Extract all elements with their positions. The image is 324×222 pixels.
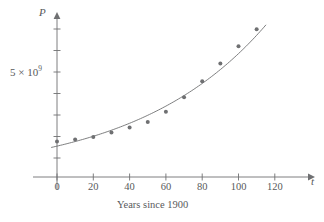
data-point [182, 95, 186, 99]
y-axis-arrowhead [54, 12, 61, 19]
y-axis-tick-label: 5 × 109 [10, 64, 42, 78]
y-tick-label-mantissa: 5 × 10 [10, 66, 38, 78]
y-axis-label: P [39, 6, 46, 18]
data-point [237, 44, 241, 48]
data-point [255, 27, 259, 31]
data-point [91, 135, 95, 139]
axes [33, 12, 315, 190]
data-point [55, 140, 59, 144]
data-point [128, 126, 132, 130]
data-point [164, 110, 168, 114]
x-tick-label-0: 0 [54, 181, 59, 192]
data-point [109, 131, 113, 135]
population-scatter-figure: P t 5 × 109 020406080100120 Years since … [0, 0, 324, 222]
x-tick-label-80: 80 [197, 181, 208, 192]
chart-caption: Years since 1900 [117, 199, 188, 210]
data-point [218, 61, 222, 65]
x-tick-label-20: 20 [88, 181, 99, 192]
x-axis-label: t [311, 175, 314, 187]
x-tick-label-40: 40 [124, 181, 135, 192]
x-tick-label-60: 60 [161, 181, 172, 192]
x-tick-label-120: 120 [267, 181, 283, 192]
data-point [200, 79, 204, 83]
exponential-fit-curve [52, 25, 266, 147]
y-tick-label-exponent: 9 [38, 64, 42, 73]
data-point-group [55, 27, 259, 143]
data-point [146, 120, 150, 124]
data-point [73, 137, 77, 141]
x-tick-label-100: 100 [231, 181, 247, 192]
